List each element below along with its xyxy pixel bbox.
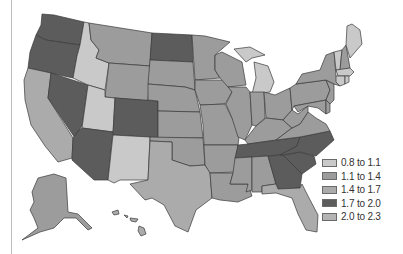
legend-label: 0.8 to 1.1 — [341, 157, 381, 168]
legend-swatch — [322, 159, 337, 167]
state-arizona[interactable] — [72, 128, 113, 180]
legend-label: 2.0 to 2.3 — [341, 211, 381, 222]
state-florida[interactable] — [262, 184, 318, 232]
state-arkansas[interactable] — [204, 145, 238, 173]
legend-label: 1.4 to 1.7 — [341, 184, 381, 195]
state-hawaii[interactable] — [112, 210, 146, 236]
legend-item: 1.7 to 2.0 — [322, 197, 381, 211]
state-colorado[interactable] — [113, 98, 158, 138]
legend-item: 1.1 to 1.4 — [322, 170, 381, 184]
state-maine[interactable] — [346, 24, 362, 58]
legend-swatch — [322, 199, 337, 207]
legend-label: 1.7 to 2.0 — [341, 198, 381, 209]
legend-label: 1.1 to 1.4 — [341, 171, 381, 182]
legend-swatch — [322, 186, 337, 194]
legend-swatch — [322, 213, 337, 221]
state-alaska[interactable] — [22, 174, 92, 240]
legend-item: 0.8 to 1.1 — [322, 156, 381, 170]
state-new-york[interactable] — [296, 52, 340, 86]
state-kansas[interactable] — [158, 111, 203, 138]
legend-swatch — [322, 172, 337, 180]
legend-item: 2.0 to 2.3 — [322, 210, 381, 224]
state-new-mexico[interactable] — [108, 135, 150, 183]
map-legend: 0.8 to 1.1 1.1 to 1.4 1.4 to 1.7 1.7 to … — [322, 156, 381, 224]
state-north-dakota[interactable] — [150, 33, 193, 62]
legend-item: 1.4 to 1.7 — [322, 183, 381, 197]
state-wyoming[interactable] — [105, 63, 150, 101]
state-rhode-island[interactable] — [345, 76, 349, 84]
